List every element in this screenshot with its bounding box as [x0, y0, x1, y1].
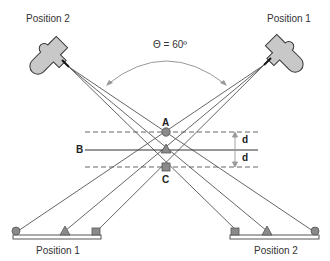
detector-left-square [92, 228, 100, 235]
marker-c-square [162, 163, 170, 171]
point-b-label: B [76, 144, 83, 155]
detector-left-bar [13, 235, 101, 239]
detector-left-label: Position 1 [36, 245, 80, 256]
detector-right-triangle [262, 226, 272, 235]
marker-b-triangle [161, 144, 171, 153]
camera-right-icon [260, 31, 310, 81]
camera-left-icon [23, 33, 73, 83]
angle-label: Θ = 60º [153, 39, 187, 50]
detector-left-triangle [60, 226, 70, 235]
camera-left-label: Position 2 [26, 13, 70, 24]
angle-arc [108, 61, 225, 84]
camera-right-label: Position 1 [267, 13, 311, 24]
marker-a-circle [162, 128, 170, 136]
detector-right-circle [311, 227, 319, 235]
point-c-label: C [162, 174, 169, 185]
detector-left-circle [12, 227, 20, 235]
rays-right-camera [18, 65, 264, 231]
d-lower-label: d [242, 152, 248, 163]
detector-right-square [231, 228, 239, 235]
detector-right-label: Position 2 [254, 245, 298, 256]
rays-left-camera [69, 67, 313, 231]
detector-right-bar [230, 235, 319, 239]
point-a-label: A [162, 117, 169, 128]
diagram-canvas: Position 2 Position 1 Θ = 60º A B C d d … [0, 0, 330, 261]
d-upper-label: d [242, 134, 248, 145]
